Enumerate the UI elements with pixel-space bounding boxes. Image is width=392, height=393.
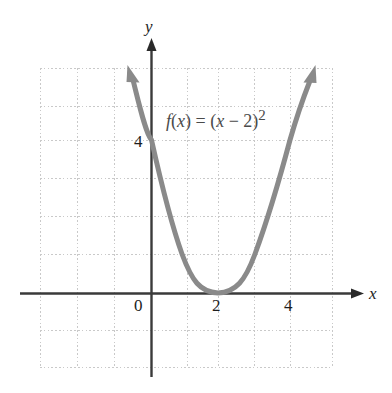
y-axis [147, 38, 157, 377]
x-tick-label-4: 4 [284, 297, 293, 314]
graph-figure: 0 2 4 4 x y f(x) = (x − 2)2 [0, 0, 392, 393]
fn-variable-2: x [216, 111, 224, 131]
fn-minus-sign: − [229, 111, 239, 131]
y-axis-label: y [145, 18, 153, 35]
x-axis-label: x [369, 285, 377, 302]
plot-canvas [0, 0, 392, 393]
y-tick-label-4: 4 [134, 133, 143, 150]
x-axis-arrowhead [351, 289, 364, 299]
function-equation-label: f(x) = (x − 2)2 [166, 108, 266, 130]
x-tick-label-0: 0 [134, 297, 143, 314]
x-axis [20, 289, 364, 299]
curve-arrowhead-left [127, 65, 140, 83]
curve-arrowhead-right [304, 65, 317, 83]
fn-constant-2: 2 [243, 111, 252, 131]
x-tick-label-2: 2 [212, 297, 221, 314]
fn-variable-1: x [177, 111, 185, 131]
y-axis-arrowhead [147, 38, 157, 51]
fn-exponent: 2 [258, 107, 266, 123]
fn-equals-sign: = [196, 111, 206, 131]
fn-close-paren-1: ) [185, 111, 191, 131]
